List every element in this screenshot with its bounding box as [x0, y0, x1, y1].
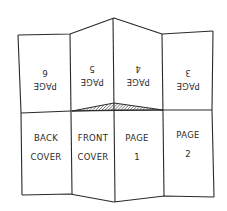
panel-label-line2: 2 [185, 149, 191, 159]
panel-label-line1: PAGE [80, 77, 103, 87]
panel-label-line1: BACK [34, 133, 58, 143]
panel-label-line2: 5 [89, 64, 95, 74]
panel-label-line2: COVER [30, 152, 61, 162]
panel-label-line2: 4 [135, 64, 141, 74]
panel-label-line1: FRONT [78, 133, 109, 143]
panel-label-line1: PAGE [33, 81, 56, 91]
panel-label-line2: 6 [42, 68, 48, 78]
center-slit-hatched [72, 103, 163, 111]
panel-back-cover: BACK COVER [30, 133, 61, 162]
panel-label-line1: PAGE [126, 77, 149, 87]
panel-page-4: PAGE 4 [126, 64, 149, 87]
panel-label-line1: PAGE [176, 81, 199, 91]
fold-line-1 [70, 34, 72, 194]
fold-line-3 [162, 34, 164, 196]
panel-page-2: PAGE 2 [176, 130, 199, 159]
panel-page-5: PAGE 5 [80, 64, 103, 87]
panel-page-1: PAGE 1 [125, 133, 148, 162]
panel-page-6: PAGE 6 [33, 68, 56, 91]
panel-front-cover: FRONT COVER [77, 133, 108, 162]
panel-label-line2: 3 [185, 68, 191, 78]
panel-label-line2: 1 [134, 152, 140, 162]
panel-label-line1: PAGE [176, 130, 199, 140]
booklet-fold-diagram: PAGE 6 PAGE 5 PAGE 4 PAGE 3 BACK COVER F… [0, 0, 227, 211]
panel-label-line2: COVER [77, 152, 108, 162]
panel-label-line1: PAGE [125, 133, 148, 143]
panel-page-3: PAGE 3 [176, 68, 199, 91]
